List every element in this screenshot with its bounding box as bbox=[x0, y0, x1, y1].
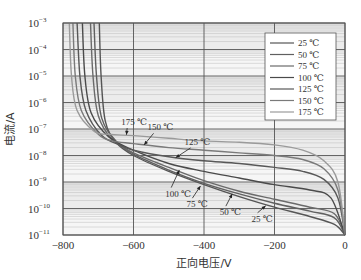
legend-label: 150 ℃ bbox=[298, 96, 324, 106]
legend-label: 125 ℃ bbox=[298, 84, 324, 94]
y-tick-label: 10−5 bbox=[28, 69, 47, 82]
annotation-label: 125 ℃ bbox=[185, 137, 211, 147]
legend-label: 50 ℃ bbox=[298, 50, 319, 60]
annotation-label: 50 ℃ bbox=[220, 207, 241, 217]
x-tick-label: 0 bbox=[342, 239, 348, 251]
y-tick-label: 10−4 bbox=[28, 43, 47, 56]
y-tick-label: 10−9 bbox=[28, 175, 47, 188]
legend-label: 175 ℃ bbox=[298, 107, 324, 117]
y-axis-label: 电流/A bbox=[3, 112, 17, 146]
x-tick-label: −400 bbox=[193, 239, 216, 251]
annotation-label: 75 ℃ bbox=[186, 199, 207, 209]
legend-label: 75 ℃ bbox=[298, 61, 319, 71]
y-tick-label: 10−7 bbox=[28, 122, 47, 135]
x-axis-ticks: −800−600−400−2000 bbox=[52, 239, 349, 251]
y-tick-label: 10−3 bbox=[28, 16, 47, 29]
y-tick-label: 10−6 bbox=[28, 96, 47, 109]
legend-label: 100 ℃ bbox=[298, 73, 324, 83]
legend: 25 ℃50 ℃75 ℃100 ℃125 ℃150 ℃175 ℃ bbox=[265, 33, 336, 120]
legend-label: 25 ℃ bbox=[298, 38, 319, 48]
x-tick-label: −800 bbox=[52, 239, 75, 251]
x-tick-label: −200 bbox=[263, 239, 286, 251]
y-tick-label: 10−10 bbox=[28, 202, 50, 215]
annotation-label: 25 ℃ bbox=[252, 214, 273, 224]
x-axis-label: 正向电压/V bbox=[176, 256, 232, 270]
annotation-label: 150 ℃ bbox=[148, 122, 174, 132]
y-tick-label: 10−8 bbox=[28, 149, 47, 162]
chart-svg: 175 ℃150 ℃125 ℃100 ℃75 ℃50 ℃25 ℃ 10−310−… bbox=[0, 0, 361, 280]
annotation-label: 100 ℃ bbox=[165, 189, 191, 199]
y-axis-ticks: 10−310−410−510−610−710−810−910−1010−11 bbox=[28, 16, 50, 241]
annotation-label: 175 ℃ bbox=[121, 117, 147, 127]
y-tick-label: 10−11 bbox=[28, 228, 50, 241]
x-tick-label: −600 bbox=[122, 239, 145, 251]
